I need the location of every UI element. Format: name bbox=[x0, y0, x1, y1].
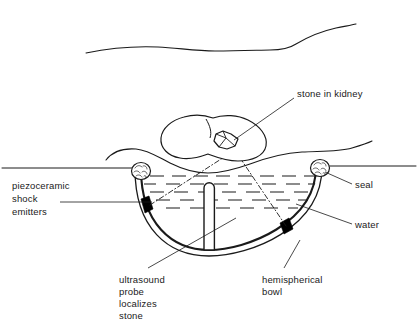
label-piezoceramic-line1: piezoceramic bbox=[12, 180, 70, 191]
seal-left bbox=[132, 163, 151, 180]
label-ultrasound-line4: stone bbox=[119, 310, 143, 321]
leader-seal bbox=[325, 172, 352, 184]
seal-right bbox=[311, 160, 330, 177]
label-piezoceramic-line2: shock bbox=[12, 193, 38, 204]
ultrasound-probe bbox=[204, 183, 214, 250]
piezoceramic-emitter-right bbox=[280, 218, 293, 234]
label-water: water bbox=[354, 219, 379, 230]
lithotripsy-diagram: stone in kidney seal water hemispherical… bbox=[0, 0, 418, 329]
hemispherical-bowl-outer bbox=[135, 167, 322, 256]
shock-focus-ray-right bbox=[236, 152, 286, 226]
label-seal: seal bbox=[355, 179, 373, 190]
label-hemispherical-bowl-line2: bowl bbox=[262, 286, 282, 297]
leader-ultrasound-probe bbox=[148, 218, 236, 268]
label-hemispherical-bowl-line1: hemispherical bbox=[262, 274, 323, 285]
shock-focus-ray-left bbox=[150, 152, 232, 205]
patient-torso-curve bbox=[86, 24, 356, 53]
label-ultrasound-line3: localizes bbox=[119, 298, 157, 309]
label-stone-in-kidney: stone in kidney bbox=[297, 88, 363, 99]
label-ultrasound-line1: ultrasound bbox=[119, 274, 165, 285]
kidney-outline bbox=[161, 115, 266, 161]
label-piezoceramic-line3: emitters bbox=[12, 206, 47, 217]
leader-hemispherical-bowl bbox=[284, 240, 300, 268]
label-ultrasound-line2: probe bbox=[119, 286, 144, 297]
